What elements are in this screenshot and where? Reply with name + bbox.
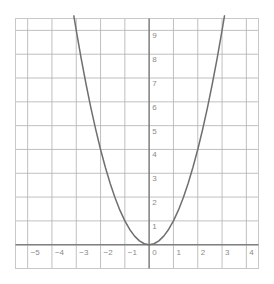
x-tick-label: 0 bbox=[152, 248, 157, 257]
chart-figure: −5−4−3−2−101234 123456789 bbox=[0, 0, 274, 284]
x-tick-label: 3 bbox=[225, 248, 230, 257]
x-tick-label: 2 bbox=[201, 248, 206, 257]
x-tick-label: −1 bbox=[128, 248, 138, 257]
y-tick-label: 4 bbox=[152, 150, 157, 159]
x-tick-label: 1 bbox=[176, 248, 181, 257]
x-tick-label: 4 bbox=[249, 248, 254, 257]
plot-background bbox=[0, 0, 274, 284]
y-tick-label: 9 bbox=[152, 31, 157, 40]
y-tick-label: 6 bbox=[152, 103, 157, 112]
y-tick-label: 3 bbox=[152, 174, 157, 183]
parabola-plot: −5−4−3−2−101234 123456789 bbox=[0, 0, 274, 284]
y-tick-label: 5 bbox=[152, 127, 157, 136]
y-tick-label: 1 bbox=[152, 222, 157, 231]
y-tick-label: 2 bbox=[152, 198, 157, 207]
x-tick-label: −3 bbox=[79, 248, 89, 257]
x-tick-label: −4 bbox=[55, 248, 65, 257]
y-tick-label: 8 bbox=[152, 55, 157, 64]
x-tick-label: −5 bbox=[31, 248, 41, 257]
x-tick-label: −2 bbox=[104, 248, 114, 257]
y-tick-label: 7 bbox=[152, 79, 157, 88]
y-axis-tick-labels: 123456789 bbox=[152, 31, 157, 230]
